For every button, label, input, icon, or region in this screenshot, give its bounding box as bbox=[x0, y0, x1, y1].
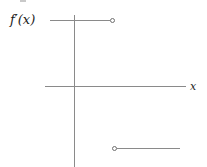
derivative-graph-figure: f′(x) x bbox=[0, 0, 207, 167]
upper-open-circle-endpoint bbox=[110, 18, 115, 23]
x-axis-line bbox=[45, 86, 186, 87]
y-axis-line bbox=[74, 15, 75, 167]
cropped-edge-artifact bbox=[20, 0, 26, 2]
x-axis-label: x bbox=[190, 81, 196, 92]
lower-open-circle-endpoint bbox=[112, 146, 117, 151]
function-label: f′(x) bbox=[10, 13, 35, 26]
left-branch-segment bbox=[50, 20, 110, 21]
right-branch-segment bbox=[117, 148, 180, 149]
